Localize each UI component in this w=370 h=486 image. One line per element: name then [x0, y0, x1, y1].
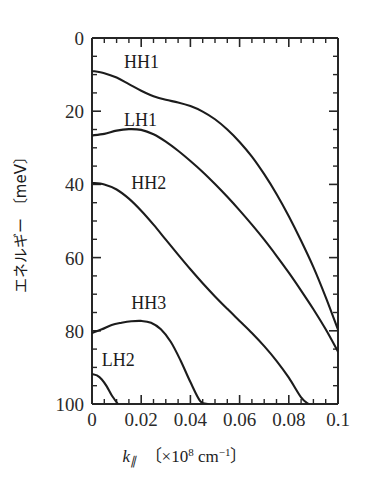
curve-label-lh1: LH1: [124, 110, 157, 130]
x-tick-label: 0.1: [326, 409, 350, 430]
y-tick-label: 100: [56, 394, 85, 415]
curve-label-hh2: HH2: [131, 173, 166, 193]
x-tick-label: 0.02: [125, 409, 158, 430]
x-tick-label: 0.08: [272, 409, 305, 430]
x-tick-label: 0.06: [223, 409, 256, 430]
y-tick-label: 60: [65, 248, 84, 269]
svg-text:エネルギー 〔meV〕: エネルギー 〔meV〕: [12, 149, 30, 293]
y-tick-label: 20: [65, 101, 84, 122]
curve-label-lh2: LH2: [102, 350, 135, 370]
y-axis-title: エネルギー 〔meV〕: [12, 149, 30, 293]
x-tick-label: 0: [87, 409, 97, 430]
chart-svg: 00.020.040.060.080.1020406080100 HH1LH1H…: [0, 0, 370, 486]
chart-figure: 00.020.040.060.080.1020406080100 HH1LH1H…: [0, 0, 370, 486]
x-tick-label: 0.04: [174, 409, 208, 430]
y-tick-label: 0: [75, 28, 85, 49]
curve-label-hh1: HH1: [124, 52, 159, 72]
y-tick-label: 80: [65, 321, 84, 342]
y-tick-label: 40: [65, 174, 84, 195]
curve-label-hh3: HH3: [131, 293, 166, 313]
